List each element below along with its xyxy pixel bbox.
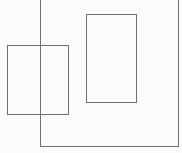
diagram-canvas — [0, 0, 182, 153]
left-box-rectangle — [7, 45, 69, 115]
right-box-rectangle — [86, 14, 137, 103]
